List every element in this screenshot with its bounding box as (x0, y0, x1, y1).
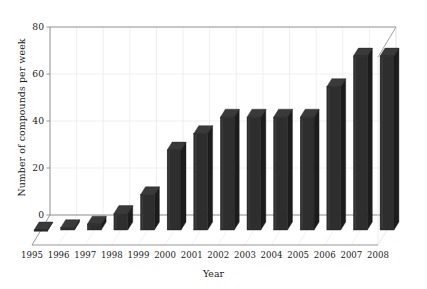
x-tick-label: 2000 (154, 250, 176, 260)
y-tick-label: 40 (32, 115, 44, 126)
y-tick-label: 0 (38, 209, 44, 220)
bar-2001 (194, 126, 213, 230)
bar-2000 (167, 142, 186, 230)
x-tick-label: 2007 (340, 250, 362, 260)
x-tick-label: 1998 (101, 250, 123, 260)
y-tick-labels: 020406080 (32, 21, 44, 220)
x-tick-label: 2008 (367, 250, 389, 260)
chart-container: Number of compounds per week Year 020406… (0, 0, 427, 289)
y-tick-label: 60 (32, 68, 44, 79)
bar-2004 (274, 109, 293, 230)
bar-2005 (300, 109, 319, 230)
x-tick-label: 1995 (21, 250, 43, 260)
x-tick-label: 2002 (207, 250, 229, 260)
x-tick-labels: 1995199619971998199920002001200220032004… (21, 250, 389, 260)
y-tick-label: 80 (32, 21, 44, 32)
bar-2003 (247, 109, 266, 230)
x-tick-label: 1997 (74, 250, 96, 260)
y-tick-label: 20 (32, 162, 44, 173)
bar-1998 (114, 206, 133, 230)
x-tick-label: 2005 (287, 250, 309, 260)
x-tick-label: 2006 (314, 250, 336, 260)
bar-2006 (327, 79, 346, 230)
x-tick-label: 2001 (181, 250, 203, 260)
bars-group (34, 48, 399, 231)
x-tick-label: 2004 (261, 250, 283, 260)
bar-chart-plot: 020406080 199519961997199819992000200120… (0, 0, 427, 289)
x-tick-label: 1996 (48, 250, 70, 260)
bar-2002 (220, 109, 239, 230)
bar-1999 (141, 187, 160, 230)
x-tick-label: 1999 (128, 250, 150, 260)
bar-2007 (353, 48, 372, 230)
bar-2008 (380, 48, 399, 230)
x-tick-label: 2003 (234, 250, 256, 260)
